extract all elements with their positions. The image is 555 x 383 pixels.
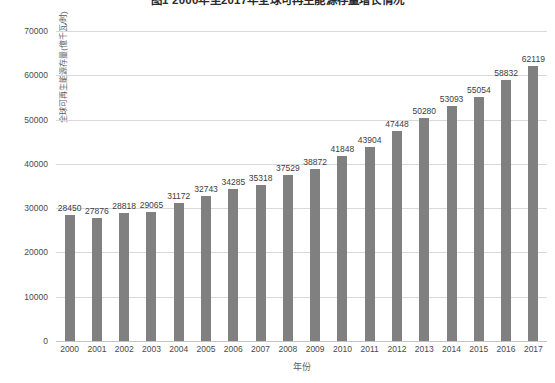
- bar[interactable]: [119, 213, 129, 341]
- x-axis-tick-label: 2001: [87, 344, 106, 354]
- x-axis-title: 年份: [56, 360, 547, 373]
- bar-value-label: 43904: [358, 135, 382, 145]
- x-axis-tick-label: 2008: [278, 344, 297, 354]
- bar-value-label: 34285: [221, 177, 245, 187]
- bar[interactable]: [92, 218, 102, 341]
- bar-value-label: 41848: [331, 144, 355, 154]
- x-axis-tick-label: 2013: [415, 344, 434, 354]
- bar-value-label: 38872: [303, 157, 327, 167]
- y-axis-tick-label: 70000: [24, 26, 48, 36]
- y-axis-tick-label: 40000: [24, 159, 48, 169]
- bar-value-label: 62119: [522, 54, 545, 64]
- bar-value-label: 29065: [140, 200, 164, 210]
- bar-value-label: 27876: [85, 206, 109, 216]
- x-axis-tick-label: 2009: [306, 344, 325, 354]
- bar[interactable]: [501, 80, 511, 341]
- bar[interactable]: [474, 97, 484, 341]
- bar[interactable]: [174, 203, 184, 341]
- bar[interactable]: [447, 106, 457, 341]
- gridline: [56, 341, 547, 342]
- y-axis-tick-label: 30000: [24, 203, 48, 213]
- gridline: [56, 31, 547, 32]
- chart-title: 图1 2000年至2017年全球可再生能源存量增长情况: [0, 0, 555, 7]
- x-axis-tick-label: 2017: [524, 344, 543, 354]
- bar-value-label: 55054: [467, 85, 491, 95]
- y-axis-tick-label: 0: [43, 336, 48, 346]
- x-axis-tick-labels: 2000200120022003200420052006200720082009…: [56, 344, 547, 358]
- bar[interactable]: [228, 189, 238, 341]
- bar[interactable]: [146, 212, 156, 341]
- y-axis-tick-label: 50000: [24, 115, 48, 125]
- bar-value-label: 35318: [249, 173, 273, 183]
- bar-value-label: 28450: [58, 203, 82, 213]
- y-axis-tick-label: 20000: [24, 247, 48, 257]
- bar-value-label: 37529: [276, 163, 300, 173]
- x-axis-tick-label: 2006: [224, 344, 243, 354]
- bar[interactable]: [310, 169, 320, 341]
- bar-value-label: 32743: [194, 184, 218, 194]
- bar-value-label: 47448: [385, 119, 409, 129]
- x-axis-tick-label: 2004: [169, 344, 188, 354]
- bar-value-label: 28818: [112, 201, 136, 211]
- bar[interactable]: [392, 131, 402, 341]
- gridline: [56, 75, 547, 76]
- bar[interactable]: [283, 175, 293, 341]
- bar-value-label: 31172: [167, 191, 190, 201]
- y-axis-tick-labels: 010000200003000040000500006000070000: [0, 31, 52, 341]
- bar[interactable]: [337, 156, 347, 341]
- x-axis-tick-label: 2011: [361, 344, 379, 354]
- x-axis-tick-label: 2005: [197, 344, 216, 354]
- y-axis-tick-label: 60000: [24, 70, 48, 80]
- bar[interactable]: [201, 196, 211, 341]
- x-axis-tick-label: 2003: [142, 344, 161, 354]
- bar-value-label: 50280: [412, 106, 436, 116]
- bar[interactable]: [419, 118, 429, 341]
- bar-value-label: 58832: [494, 68, 518, 78]
- x-axis-tick-label: 2010: [333, 344, 352, 354]
- y-axis-tick-label: 10000: [24, 292, 48, 302]
- bar[interactable]: [365, 147, 375, 341]
- bar[interactable]: [528, 66, 538, 341]
- bar[interactable]: [256, 185, 266, 341]
- x-axis-tick-label: 2012: [388, 344, 407, 354]
- x-axis-tick-label: 2002: [115, 344, 134, 354]
- x-axis-tick-label: 2015: [469, 344, 488, 354]
- plot-area: 2845027876288182906531172327433428535318…: [56, 31, 547, 341]
- bar[interactable]: [65, 215, 75, 341]
- x-axis-tick-label: 2016: [497, 344, 516, 354]
- chart-container: 图1 2000年至2017年全球可再生能源存量增长情况 全球可再生能源存量(億千…: [0, 0, 555, 383]
- bar-value-label: 53093: [440, 94, 464, 104]
- x-axis-tick-label: 2014: [442, 344, 461, 354]
- x-axis-tick-label: 2007: [251, 344, 270, 354]
- x-axis-tick-label: 2000: [60, 344, 79, 354]
